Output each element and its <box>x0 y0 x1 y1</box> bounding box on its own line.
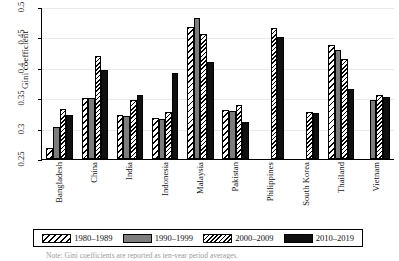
bar <box>152 118 159 159</box>
bar <box>306 112 313 159</box>
x-axis-label: Malaysia <box>195 162 205 194</box>
x-axis-label: Thailand <box>336 162 346 193</box>
x-axis-label: Bangladesh <box>54 162 64 203</box>
legend-item[interactable]: 2000–2009 <box>203 233 273 243</box>
y-axis-tick <box>38 160 42 161</box>
x-axis-label: Vietnam <box>371 162 381 191</box>
bar <box>271 28 278 159</box>
bar <box>187 27 194 159</box>
bar <box>66 115 73 159</box>
x-axis-label-cell: Malaysia <box>182 162 217 220</box>
bar-group <box>42 8 77 159</box>
gini-coefficient-bar-chart: Gini coefficient 0.250.30.350.40.450.5 B… <box>0 0 399 261</box>
legend-swatch <box>123 234 152 243</box>
x-axis-label-cell: South Korea <box>288 162 323 220</box>
x-axis-label: Philippines <box>265 162 275 201</box>
bar <box>348 89 355 159</box>
legend-item[interactable]: 2010–2019 <box>284 233 354 243</box>
bar <box>328 45 335 159</box>
x-axis-label-cell: Vietnam <box>359 162 394 220</box>
y-axis-tick-label: 0.35 <box>16 85 26 111</box>
bar <box>123 116 130 159</box>
bar-group <box>112 8 147 159</box>
x-axis-label-cell: Thailand <box>323 162 358 220</box>
bar <box>370 100 377 159</box>
bar <box>207 62 214 159</box>
legend-swatch <box>42 234 71 243</box>
y-axis-tick-label: 0.25 <box>16 146 26 172</box>
figure-note: Note: Gini coefficients are reported as … <box>46 251 386 259</box>
bar <box>88 98 95 159</box>
legend-swatch <box>203 234 232 243</box>
y-axis-tick-label: 0.5 <box>16 0 26 20</box>
bar <box>117 115 124 159</box>
x-axis-labels: BangladeshChinaIndiaIndonesiaMalaysiaPak… <box>41 162 394 220</box>
x-axis-label: Pakistan <box>230 162 240 192</box>
bar-group <box>253 8 288 159</box>
y-axis-tick-label: 0.3 <box>16 116 26 142</box>
bar-group <box>324 8 359 159</box>
x-axis-label: China <box>89 162 99 183</box>
bar <box>137 95 144 159</box>
bar <box>341 59 348 159</box>
bar-groups <box>42 8 394 159</box>
bar <box>222 110 229 159</box>
y-axis-tick-label: 0.45 <box>16 24 26 50</box>
bar <box>200 34 207 159</box>
bar <box>130 100 137 159</box>
plot-area: 0.250.30.350.40.450.5 <box>41 8 394 160</box>
x-axis-label: South Korea <box>301 162 311 206</box>
bar <box>277 37 284 159</box>
bar-group <box>359 8 394 159</box>
bar <box>242 122 249 159</box>
bar-group <box>77 8 112 159</box>
bar <box>95 56 102 159</box>
bar-group <box>218 8 253 159</box>
bar <box>60 109 67 159</box>
bar <box>53 127 60 159</box>
bar <box>172 73 179 159</box>
bar <box>229 111 236 159</box>
x-axis-label-cell: Philippines <box>253 162 288 220</box>
bar-group <box>288 8 323 159</box>
y-axis-tick-label: 0.4 <box>16 55 26 81</box>
x-axis-label-cell: India <box>112 162 147 220</box>
legend-label: 1980–1989 <box>74 233 112 243</box>
legend-swatch <box>284 234 313 243</box>
bar <box>159 119 166 159</box>
bar <box>194 18 201 159</box>
x-axis-label-cell: Bangladesh <box>41 162 76 220</box>
x-axis-label: Indonesia <box>160 162 170 196</box>
bar-group <box>148 8 183 159</box>
bar <box>376 95 383 159</box>
legend-label: 2010–2019 <box>316 233 354 243</box>
x-axis-label: India <box>124 162 134 180</box>
legend-item[interactable]: 1980–1989 <box>42 233 112 243</box>
legend: 1980–19891990–19992000–20092010–2019 <box>33 229 363 247</box>
bar <box>313 113 320 159</box>
bar <box>335 50 342 159</box>
legend-item[interactable]: 1990–1999 <box>123 233 193 243</box>
bar <box>82 98 89 159</box>
bar <box>165 112 172 159</box>
x-axis-label-cell: Pakistan <box>217 162 252 220</box>
bar <box>46 148 53 159</box>
bar-group <box>183 8 218 159</box>
bar <box>101 70 108 159</box>
bar <box>236 105 243 159</box>
legend-label: 2000–2009 <box>235 233 273 243</box>
x-axis-label-cell: China <box>76 162 111 220</box>
bar <box>383 97 390 159</box>
legend-label: 1990–1999 <box>155 233 193 243</box>
x-axis-label-cell: Indonesia <box>147 162 182 220</box>
